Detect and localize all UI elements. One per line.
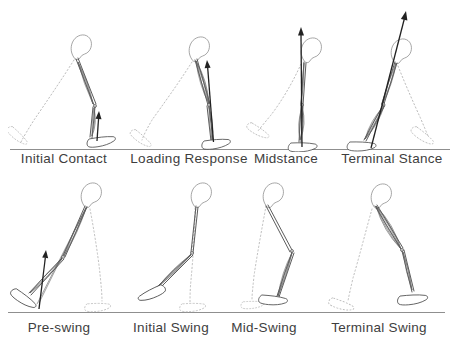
ghost-leg: [21, 60, 74, 142]
femur-bone: [191, 206, 198, 253]
shank-muscle-bundle: [278, 253, 292, 296]
foot-bone: [137, 283, 167, 305]
ghost-leg: [348, 209, 372, 301]
foot-bone: [86, 136, 116, 148]
phase-label-midstance: Midstance: [254, 151, 318, 166]
phase-label-terminal-stance: Terminal Stance: [341, 151, 442, 166]
thigh-muscle-bundle: [78, 62, 93, 104]
phase-label-pre-swing: Pre-swing: [28, 320, 91, 335]
pelvis-bone: [191, 183, 211, 208]
foot-bone: [201, 139, 230, 150]
ghost-foot: [246, 121, 271, 141]
pelvis-bone: [371, 184, 391, 209]
ghost-leg: [90, 209, 102, 301]
ghost-leg: [398, 66, 428, 136]
ghost-foot: [180, 303, 206, 311]
shank-muscle-bundle: [158, 255, 191, 287]
phase-label-terminal-swing: Terminal Swing: [331, 320, 427, 335]
ghost-foot: [328, 296, 355, 313]
initial-swing-figure: [128, 178, 220, 315]
pelvis-bone: [301, 38, 321, 63]
ghost-foot: [85, 303, 111, 311]
ghost-foot: [410, 125, 435, 148]
force-arrow: [96, 111, 102, 141]
ghost-foot: [129, 128, 152, 150]
shank-muscle-bundle: [403, 252, 412, 290]
pelvis-bone: [71, 35, 91, 60]
phase-label-mid-swing: Mid-Swing: [231, 320, 297, 335]
terminal-stance-figure: [344, 4, 453, 154]
pelvis-bone: [189, 37, 209, 62]
gait-phases-diagram: Initial Contact Loading Response Midstan…: [0, 0, 453, 344]
pelvis-bone: [263, 183, 283, 208]
thigh-muscle-bundle: [383, 63, 396, 103]
foot-bone: [397, 294, 427, 305]
pre-swing-figure: [8, 178, 123, 315]
terminal-swing-figure: [326, 178, 453, 315]
force-arrow: [39, 250, 48, 309]
ghost-leg: [142, 62, 192, 140]
force-arrow: [371, 11, 407, 148]
phase-label-initial-swing: Initial Swing: [133, 320, 209, 335]
phase-label-initial-contact: Initial Contact: [21, 151, 107, 166]
loading-response-figure: [128, 26, 238, 152]
initial-contact-figure: [8, 26, 128, 152]
midstance-figure: [244, 6, 344, 152]
phase-label-loading-response: Loading Response: [130, 151, 247, 166]
foot-bone: [258, 294, 288, 307]
femur-bone: [266, 205, 292, 252]
pelvis-bone: [81, 183, 101, 208]
ghost-foot: [8, 125, 28, 148]
mid-swing-figure: [236, 178, 312, 315]
ghost-leg: [258, 64, 301, 131]
ghost-leg: [252, 206, 266, 300]
